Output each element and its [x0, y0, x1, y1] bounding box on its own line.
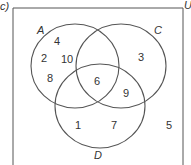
region-a-only-value: 2: [41, 52, 47, 64]
venn-diagram-svg: c) U A C D 4 2 10 8 3 6 9 1 7 5: [0, 0, 191, 165]
region-a-only-value: 10: [61, 53, 73, 65]
universal-set-label: U: [184, 0, 191, 11]
region-outside-value: 5: [166, 119, 172, 131]
region-d-only-value: 7: [111, 119, 117, 131]
region-c-only-value: 3: [138, 51, 144, 63]
region-d-only-value: 1: [75, 119, 81, 131]
question-label: c): [0, 0, 10, 12]
set-c-circle: [76, 24, 166, 108]
region-c-d-only-value: 9: [123, 87, 129, 99]
set-c-label: C: [154, 24, 162, 36]
region-a-c-d-value: 6: [94, 75, 100, 87]
set-a-label: A: [36, 24, 44, 36]
venn-diagram-figure: c) U A C D 4 2 10 8 3 6 9 1 7 5: [0, 0, 191, 165]
region-a-only-value: 8: [47, 72, 53, 84]
set-d-label: D: [94, 149, 102, 161]
region-a-only-value: 4: [54, 35, 60, 47]
set-a-circle: [31, 24, 119, 108]
